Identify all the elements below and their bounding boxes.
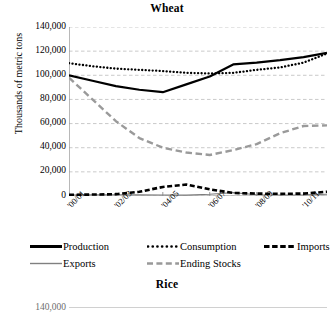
legend-swatch-production-icon: [30, 241, 62, 252]
legend-swatch-imports-icon: [264, 241, 296, 252]
y-tick-120000: 120,000: [14, 46, 66, 56]
wheat-plot-area: [69, 27, 327, 196]
legend-label-exports: Exports: [62, 258, 96, 269]
legend-row-2: Exports Ending Stocks: [14, 255, 334, 272]
rice-chart-panel: Rice 140,000: [0, 276, 334, 316]
y-tick-20000: 20,000: [14, 166, 66, 176]
legend-item-imports: Imports: [264, 238, 330, 255]
y-tick-80000: 80,000: [14, 94, 66, 104]
rice-y-tick-140000: 140,000: [8, 302, 66, 312]
legend-label-consumption: Consumption: [179, 241, 237, 252]
figure-page: Wheat Thousands of metric tons 140,000 1…: [0, 0, 334, 316]
y-tick-100000: 100,000: [14, 70, 66, 80]
y-tick-0: 0: [14, 191, 66, 201]
legend-swatch-consumption-icon: [147, 241, 179, 252]
rice-top-gridline: [69, 307, 327, 308]
y-axis-tick-labels: 140,000 120,000 100,000 80,000 60,000 40…: [8, 0, 66, 200]
y-tick-60000: 60,000: [14, 118, 66, 128]
series-line-ending-stocks: [69, 78, 327, 155]
wheat-chart-panel: Wheat Thousands of metric tons 140,000 1…: [0, 0, 334, 232]
rice-chart-title: Rice: [0, 278, 334, 290]
legend-label-ending-stocks: Ending Stocks: [179, 258, 241, 269]
chart-legend: Production Consumption Imports Ex: [14, 238, 334, 274]
series-line-imports: [69, 185, 327, 195]
legend-item-exports: Exports: [30, 255, 96, 272]
legend-label-production: Production: [62, 241, 109, 252]
legend-item-ending-stocks: Ending Stocks: [147, 255, 241, 272]
legend-swatch-exports-icon: [30, 258, 62, 269]
legend-label-imports: Imports: [296, 241, 330, 252]
legend-swatch-ending-stocks-icon: [147, 258, 179, 269]
y-tick-140000: 140,000: [14, 22, 66, 32]
legend-item-consumption: Consumption: [147, 238, 237, 255]
y-tick-40000: 40,000: [14, 142, 66, 152]
legend-row-1: Production Consumption Imports: [14, 238, 334, 255]
series-line-consumption: [69, 54, 327, 74]
legend-item-production: Production: [30, 238, 109, 255]
